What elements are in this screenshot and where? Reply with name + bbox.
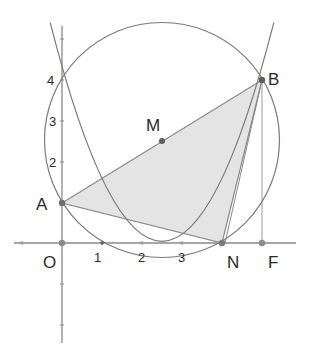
point-o: [59, 240, 65, 246]
label-m: M: [146, 116, 160, 135]
label-f: F: [268, 253, 278, 272]
label-b: B: [268, 70, 279, 89]
y-tick-label-3: 3: [49, 114, 56, 129]
x-tick-label-3: 3: [178, 250, 185, 265]
x-tick-label-1: 1: [94, 250, 101, 265]
label-a: A: [36, 195, 48, 214]
point-n: [219, 240, 225, 246]
label-o: O: [43, 253, 56, 272]
point-a: [59, 200, 65, 206]
triangle-abn: [62, 80, 262, 243]
point-m: [159, 138, 165, 144]
point-b: [259, 77, 265, 83]
point-x1: [100, 241, 104, 245]
x-tick-label-2: 2: [138, 250, 145, 265]
point-f: [259, 240, 265, 246]
y-tick-label-4: 4: [47, 73, 54, 88]
label-n: N: [227, 253, 239, 272]
geometry-figure: A B M O N F 1 2 3 2 3 4: [0, 0, 311, 364]
y-tick-label-2: 2: [49, 155, 56, 170]
